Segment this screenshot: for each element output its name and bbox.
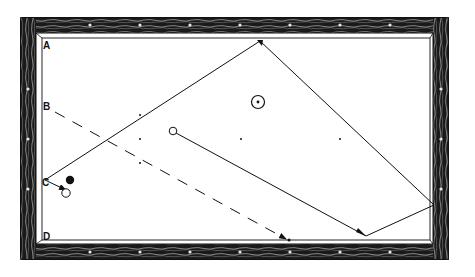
spot-marker	[240, 138, 242, 140]
bottom-rail	[20, 244, 449, 260]
spot-marker	[139, 162, 141, 164]
spot-marker	[139, 138, 141, 140]
label-c: C	[42, 177, 49, 188]
object-ball-white	[62, 189, 70, 197]
cue-ball	[169, 127, 177, 135]
label-b: B	[43, 101, 50, 112]
billiard-table-diagram: A B C D	[0, 0, 475, 277]
label-d: D	[43, 231, 50, 242]
spot-marker	[139, 114, 141, 116]
top-rail	[20, 17, 449, 33]
spot-marker	[339, 138, 341, 140]
object-ball-spot	[252, 96, 265, 109]
label-a: A	[43, 40, 50, 51]
object-ball-black	[66, 176, 74, 184]
cushion	[36, 33, 433, 244]
contact-point	[287, 238, 290, 241]
